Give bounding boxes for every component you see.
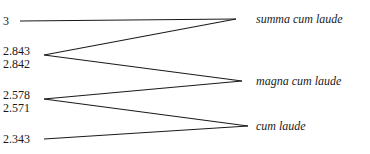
line-2578-to-magna [44, 81, 242, 99]
line-2343-to-cum [44, 126, 248, 139]
line-2571-to-cum [44, 99, 248, 126]
line-2843-to-summa [44, 19, 236, 55]
category-cum-laude: cum laude [256, 120, 306, 132]
line-3-to-summa [20, 19, 236, 21]
category-summa-cum-laude: summa cum laude [256, 13, 343, 25]
line-2842-to-magna [44, 55, 242, 81]
category-magna-cum-laude: magna cum laude [256, 75, 341, 87]
